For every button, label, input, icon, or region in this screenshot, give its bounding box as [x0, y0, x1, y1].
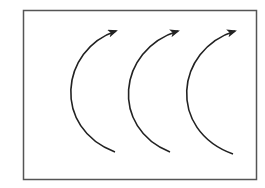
curved-arrow-3 — [187, 31, 235, 154]
curved-arrow-2 — [128, 31, 178, 152]
curved-arrow-1 — [71, 31, 116, 152]
diagram-canvas — [0, 0, 265, 188]
